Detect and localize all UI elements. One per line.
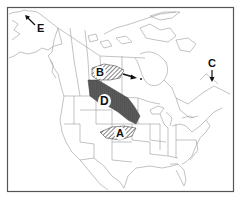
label-a: A	[114, 127, 126, 140]
label-b: B	[94, 66, 106, 79]
north-america-map: E B C D A	[0, 0, 244, 202]
label-c: C	[208, 58, 216, 69]
label-d: D	[98, 94, 111, 108]
label-e: E	[37, 23, 44, 34]
